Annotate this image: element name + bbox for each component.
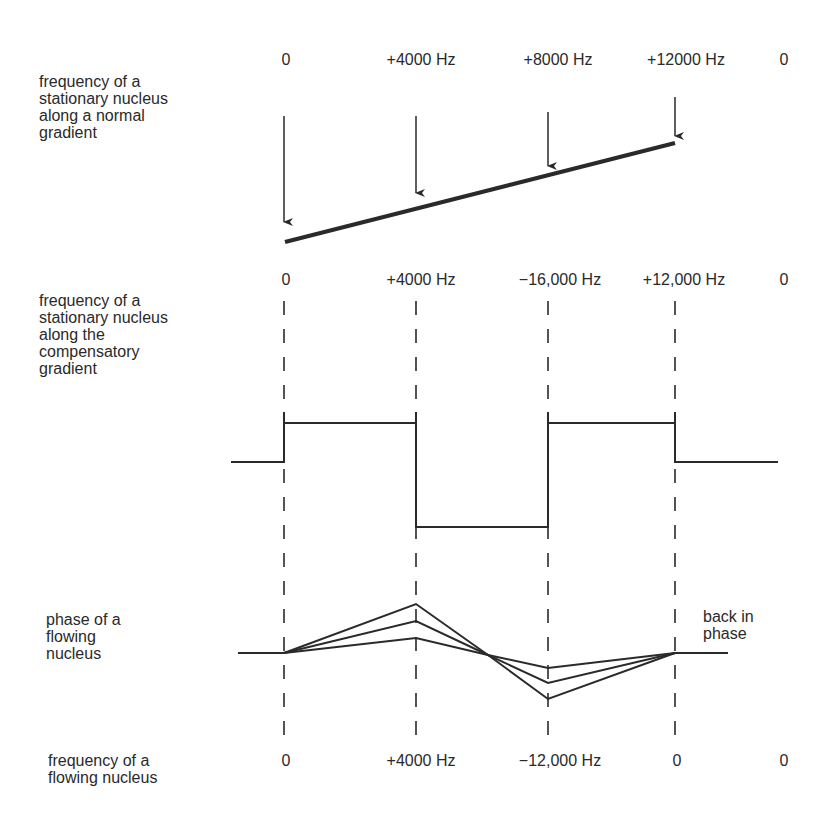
compensatory-gradient-waveform <box>231 412 778 527</box>
diagram-canvas <box>0 0 833 817</box>
gradient-ramp-line <box>285 143 675 242</box>
normal-gradient-panel <box>284 97 675 242</box>
dashed-guides <box>284 301 675 745</box>
flowing-nucleus-phase-curves <box>238 604 728 699</box>
